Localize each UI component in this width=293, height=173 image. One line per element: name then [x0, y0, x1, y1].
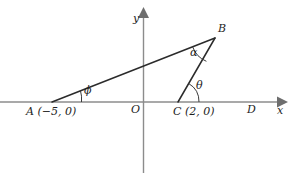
x-axis-label: x — [277, 105, 283, 116]
point-label-C: C (2, 0) — [173, 106, 215, 117]
point-label-A-coords: (−5, 0) — [37, 105, 76, 118]
point-label-A-name: A — [26, 105, 34, 118]
point-label-C-coords: (2, 0) — [185, 105, 215, 118]
y-axis-label: y — [133, 13, 139, 24]
point-label-A: A (−5, 0) — [26, 106, 76, 117]
y-axis-arrowhead — [138, 7, 149, 18]
angle-label-phi: ϕ — [84, 85, 92, 96]
point-label-B: B — [218, 23, 226, 34]
angle-label-theta: θ — [196, 80, 203, 91]
origin-label-O: O — [131, 104, 140, 115]
point-label-D: D — [247, 104, 256, 115]
diagram-canvas — [0, 0, 293, 173]
geometry-figure: A (−5, 0) B C (2, 0) O D x y ϕ α θ — [0, 0, 293, 173]
angle-label-alpha: α — [190, 47, 197, 58]
angle-arc-phi — [80, 91, 81, 103]
